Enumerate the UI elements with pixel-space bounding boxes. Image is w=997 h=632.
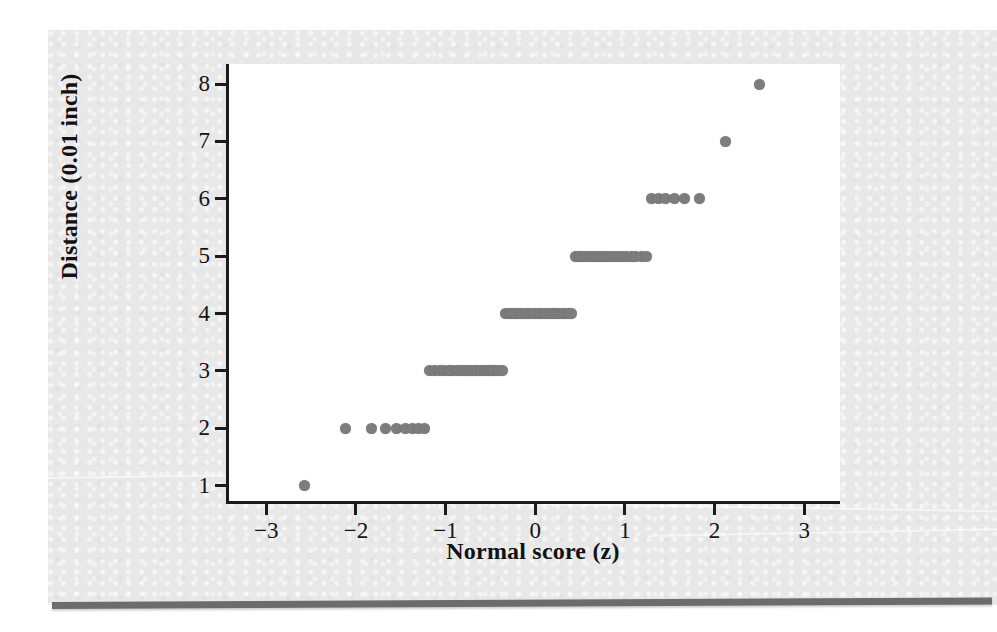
y-axis-title: Distance (0.01 inch)	[56, 12, 83, 342]
plot-area	[226, 64, 840, 504]
scatter-point	[340, 423, 351, 434]
x-tick-mark	[623, 504, 626, 515]
x-tick-mark	[713, 504, 716, 515]
x-tick-mark	[354, 504, 357, 515]
x-tick-mark	[444, 504, 447, 515]
scatter-point	[720, 136, 731, 147]
scatter-point	[669, 193, 680, 204]
page-canvas: 12345678 −3−2−10123 Normal score (z) Dis…	[0, 0, 997, 632]
y-tick-label: 1	[180, 474, 210, 497]
x-tick-mark	[265, 504, 268, 515]
x-tick-mark	[534, 504, 537, 515]
y-tick-label: 3	[180, 359, 210, 382]
y-tick-mark	[215, 427, 226, 430]
y-tick-mark	[215, 83, 226, 86]
y-tick-label: 6	[180, 187, 210, 210]
y-tick-label: 4	[180, 302, 210, 325]
plot-frame: 12345678 −3−2−10123	[226, 64, 840, 504]
x-tick-mark	[803, 504, 806, 515]
y-axis-line	[226, 64, 229, 504]
scatter-point	[366, 423, 377, 434]
y-tick-mark	[215, 312, 226, 315]
scatter-point	[380, 423, 391, 434]
scatter-point	[694, 193, 705, 204]
scatter-point	[641, 251, 652, 262]
scatter-point	[419, 423, 430, 434]
y-tick-mark	[215, 140, 226, 143]
y-tick-label: 7	[180, 129, 210, 152]
y-tick-label: 5	[180, 244, 210, 267]
x-axis-title: Normal score (z)	[226, 538, 840, 565]
y-tick-mark	[215, 369, 226, 372]
y-tick-label: 2	[180, 416, 210, 439]
y-tick-label: 8	[180, 72, 210, 95]
scatter-point	[754, 79, 765, 90]
y-tick-mark	[215, 197, 226, 200]
y-tick-mark	[215, 484, 226, 487]
scatter-point	[497, 365, 508, 376]
y-tick-mark	[215, 255, 226, 258]
